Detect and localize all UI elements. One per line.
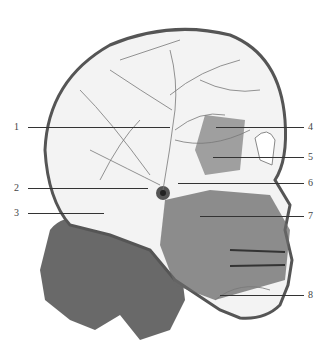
- callout-label-1: 1: [14, 122, 19, 132]
- callout-line-1: [28, 127, 170, 128]
- head-vasculature-illustration: [0, 0, 333, 354]
- callout-label-8: 8: [308, 290, 313, 300]
- face-tissue: [160, 190, 290, 300]
- callout-label-7: 7: [308, 211, 313, 221]
- callout-label-3: 3: [14, 208, 19, 218]
- callout-label-6: 6: [308, 178, 313, 188]
- callout-label-4: 4: [308, 122, 313, 132]
- temporal-region: [195, 115, 245, 175]
- callout-label-2: 2: [14, 183, 19, 193]
- callout-line-7: [200, 216, 304, 217]
- callout-line-5: [213, 157, 304, 158]
- callout-line-2: [28, 188, 148, 189]
- callout-line-8: [220, 295, 304, 296]
- callout-line-3: [28, 213, 104, 214]
- callout-label-5: 5: [308, 152, 313, 162]
- callout-line-6: [178, 183, 304, 184]
- callout-line-4: [216, 127, 304, 128]
